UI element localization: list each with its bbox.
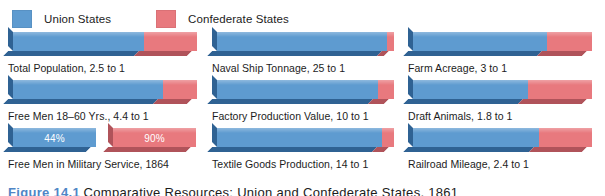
bar-caption-factory-production-value: Factory Production Value, 10 to 1: [212, 110, 398, 122]
bar-bottom-segment-conf: [372, 147, 389, 152]
bar-bottom-face: [207, 99, 389, 104]
bar-free-men-military-service-confederate: 90%: [108, 128, 196, 147]
bar-segment-conf: [382, 128, 394, 147]
bar-front-face: 90%: [113, 128, 196, 147]
bar-block-railroad-mileage: Railroad Mileage, 2.4 to 1: [408, 128, 596, 170]
bar-bottom-segment-union: [207, 147, 377, 152]
bar-segment-union: [413, 128, 539, 147]
bar-bottom-segment-union: [403, 99, 523, 104]
bar-segment-union: [217, 32, 387, 51]
bar-bottom-segment-union: [3, 147, 91, 152]
bar-bottom-segment-conf: [134, 51, 192, 56]
legend-item-confederate: Confederate States: [156, 10, 289, 28]
bar-free-men-military-service-union: 44%: [8, 128, 96, 147]
bar-segment-union: [413, 32, 547, 51]
bar-block-factory-production-value: Factory Production Value, 10 to 1: [212, 80, 398, 122]
bar-segment-union: 44%: [13, 128, 96, 147]
bar-value-label: 90%: [113, 132, 196, 143]
bar-block-textile-goods-production: Textile Goods Production, 14 to 1: [212, 128, 398, 170]
legend-item-union: Union States: [12, 10, 111, 28]
bar-front-face: [217, 32, 394, 51]
bar-bottom-face: [403, 51, 587, 56]
bar-farm-acreage: [408, 32, 592, 51]
bar-block-free-men-18-60: Free Men 18–60 Yrs., 4.4 to 1: [8, 80, 201, 122]
bar-bottom-segment-union: [3, 51, 139, 56]
bar-bottom-segment-union: [207, 99, 373, 104]
bar-block-total-population: Total Population, 2.5 to 1: [8, 32, 201, 74]
bar-front-face: 44%: [13, 128, 96, 147]
bar-segment-conf: 90%: [113, 128, 196, 147]
bar-bottom-segment-union: [3, 99, 158, 104]
bar-caption-free-men-18-60: Free Men 18–60 Yrs., 4.4 to 1: [8, 110, 201, 122]
bar-bottom-segment-conf: [529, 147, 587, 152]
figure-caption-number: Figure 14.1: [8, 185, 80, 196]
bar-block-free-men-military-service: 44%90%Free Men in Military Service, 1864: [8, 128, 201, 170]
bar-segment-conf: [144, 32, 197, 51]
bar-bottom-segment-union: [207, 51, 382, 56]
bar-caption-draft-animals: Draft Animals, 1.8 to 1: [408, 110, 596, 122]
legend-swatch-confederate-icon: [156, 10, 176, 28]
bar-bottom-segment-conf: [537, 51, 587, 56]
bar-total-population: [8, 32, 197, 51]
bar-factory-production-value: [212, 80, 394, 99]
bar-front-face: [413, 128, 592, 147]
bar-segment-conf: [528, 80, 592, 99]
bar-naval-ship-tonnage: [212, 32, 394, 51]
bar-bottom-segment-union: [403, 147, 534, 152]
bar-bottom-segment-conf: [368, 99, 389, 104]
bar-segment-union: [13, 80, 163, 99]
bar-caption-total-population: Total Population, 2.5 to 1: [8, 62, 201, 74]
bar-bottom-segment-conf: [103, 147, 191, 152]
bar-segment-union: [217, 128, 382, 147]
bar-segment-conf: [378, 80, 394, 99]
legend-label-union: Union States: [44, 13, 111, 25]
bar-bottom-face: [103, 147, 191, 152]
bar-bottom-face: [403, 147, 587, 152]
bar-bottom-face: [403, 99, 587, 104]
bar-segment-conf: [539, 128, 592, 147]
chart-legend: Union States Confederate States: [0, 0, 605, 30]
bar-bottom-face: [207, 51, 389, 56]
bar-front-face: [13, 32, 197, 51]
bar-draft-animals: [408, 80, 592, 99]
bar-front-face: [217, 80, 394, 99]
bar-segment-conf: [163, 80, 197, 99]
bar-front-face: [217, 128, 394, 147]
bar-bottom-face: [3, 147, 91, 152]
bar-caption-free-men-military-service: Free Men in Military Service, 1864: [8, 158, 201, 170]
bar-bottom-segment-conf: [518, 99, 587, 104]
bar-caption-naval-ship-tonnage: Naval Ship Tonnage, 25 to 1: [212, 62, 398, 74]
bar-value-label: 44%: [13, 132, 96, 143]
bar-segment-conf: [547, 32, 592, 51]
bar-textile-goods-production: [212, 128, 394, 147]
legend-swatch-union-icon: [12, 10, 32, 28]
dual-bar-group-free-men-military-service: 44%90%: [8, 128, 201, 147]
bar-caption-farm-acreage: Farm Acreage, 3 to 1: [408, 62, 596, 74]
bar-bottom-face: [3, 51, 192, 56]
bar-free-men-18-60: [8, 80, 197, 99]
bar-railroad-mileage: [408, 128, 592, 147]
bar-bottom-face: [3, 99, 192, 104]
figure-caption: Figure 14.1 Comparative Resources: Union…: [8, 185, 598, 196]
comparative-resources-bar-chart: Total Population, 2.5 to 1Naval Ship Ton…: [0, 28, 605, 176]
bar-block-farm-acreage: Farm Acreage, 3 to 1: [408, 32, 596, 74]
bar-block-naval-ship-tonnage: Naval Ship Tonnage, 25 to 1: [212, 32, 398, 74]
bar-segment-conf: [387, 32, 394, 51]
bar-front-face: [13, 80, 197, 99]
bar-caption-textile-goods-production: Textile Goods Production, 14 to 1: [212, 158, 398, 170]
bar-bottom-segment-conf: [153, 99, 192, 104]
bar-block-draft-animals: Draft Animals, 1.8 to 1: [408, 80, 596, 122]
figure-caption-text: Comparative Resources: Union and Confede…: [84, 185, 459, 196]
bar-caption-railroad-mileage: Railroad Mileage, 2.4 to 1: [408, 158, 596, 170]
bar-segment-union: [413, 80, 528, 99]
legend-label-confederate: Confederate States: [188, 13, 289, 25]
bar-segment-union: [217, 80, 378, 99]
bar-segment-union: [13, 32, 144, 51]
bar-front-face: [413, 32, 592, 51]
bar-bottom-face: [207, 147, 389, 152]
bar-front-face: [413, 80, 592, 99]
bar-bottom-segment-union: [403, 51, 542, 56]
